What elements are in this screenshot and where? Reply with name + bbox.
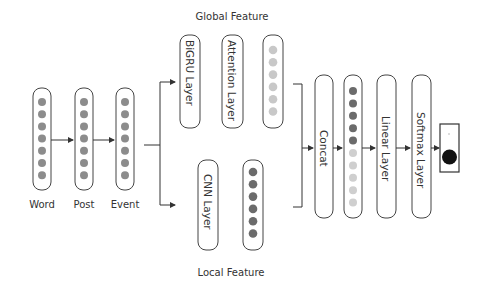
event-label: Event <box>111 199 140 210</box>
global-feature-vector <box>263 35 283 128</box>
post-vector <box>75 88 93 190</box>
vector-node <box>349 186 357 194</box>
vector-node <box>249 217 258 226</box>
local-feature-vector <box>243 160 263 250</box>
vector-node <box>38 110 46 118</box>
vector-node <box>269 107 278 116</box>
softmax-layer: Softmax Layer <box>412 75 431 218</box>
merged-feature-vector <box>344 75 362 218</box>
attention-layer: Attention Layer <box>222 35 243 128</box>
svg-text:BiGRU Layer: BiGRU Layer <box>184 40 196 107</box>
vector-node <box>269 70 278 79</box>
merge-connector <box>293 84 313 207</box>
vector-node <box>121 171 129 179</box>
split-connector <box>144 82 175 205</box>
vector-node <box>80 122 88 130</box>
vector-node <box>80 147 88 155</box>
vector-node <box>349 161 357 169</box>
event-vector <box>116 88 134 190</box>
vector-node <box>38 159 46 167</box>
vector-node <box>38 171 46 179</box>
svg-text:CNN Layer: CNN Layer <box>202 174 214 230</box>
post-label: Post <box>74 199 95 210</box>
svg-text:Softmax Layer: Softmax Layer <box>415 112 427 189</box>
vector-node <box>80 110 88 118</box>
vector-node <box>249 168 258 177</box>
vector-node <box>249 205 258 214</box>
vector-node <box>249 180 258 189</box>
vector-node <box>38 98 46 106</box>
vector-node <box>249 229 258 238</box>
vector-node <box>269 46 278 55</box>
vector-node <box>269 58 278 67</box>
vector-node <box>121 110 129 118</box>
vector-node <box>80 98 88 106</box>
vector-node <box>121 147 129 155</box>
vector-node <box>121 135 129 143</box>
svg-text:Concat: Concat <box>318 130 330 167</box>
vector-node <box>80 171 88 179</box>
vector-node <box>349 137 357 145</box>
bigru-layer: BiGRU Layer <box>180 35 200 128</box>
global-feature-label: Global Feature <box>196 11 269 22</box>
vector-node <box>349 112 357 120</box>
word-vector <box>33 88 51 190</box>
output-node <box>442 150 457 165</box>
vector-node <box>38 135 46 143</box>
svg-text:Linear Layer: Linear Layer <box>380 116 392 182</box>
vector-node <box>121 122 129 130</box>
svg-text:Attention Layer: Attention Layer <box>226 40 238 122</box>
vector-node <box>349 87 357 95</box>
vector-node <box>349 99 357 107</box>
vector-node <box>38 122 46 130</box>
vector-node <box>349 199 357 207</box>
vector-node <box>349 149 357 157</box>
word-label: Word <box>29 199 55 210</box>
vector-node <box>269 83 278 92</box>
linear-layer: Linear Layer <box>377 75 396 218</box>
vector-node <box>249 192 258 201</box>
vector-node <box>80 135 88 143</box>
cnn-layer: CNN Layer <box>198 160 218 250</box>
local-feature-label: Local Feature <box>198 267 265 278</box>
vector-node <box>349 174 357 182</box>
vector-node <box>38 147 46 155</box>
concat-layer: Concat <box>315 75 333 218</box>
output-box <box>440 124 459 172</box>
architecture-diagram: Word Post Event Global Feature BiGRU Lay… <box>0 0 480 289</box>
vector-node <box>121 98 129 106</box>
vector-node <box>349 124 357 132</box>
vector-node <box>269 95 278 104</box>
vector-node <box>80 159 88 167</box>
vector-node <box>121 159 129 167</box>
